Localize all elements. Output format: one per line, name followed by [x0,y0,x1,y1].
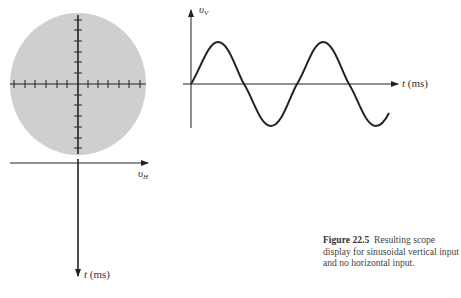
vertical-input-plot [183,10,398,128]
figure-caption: Figure 22.5 Resulting scope display for … [323,234,461,269]
scope-screen [10,13,146,155]
vv-axis-label: υV [199,3,208,15]
time-axis-right-label: t (ms) [402,77,428,89]
vh-axis-label: υH [138,167,148,179]
figure-number: Figure 22.5 [323,234,369,245]
time-axis-down-label: t (ms) [84,268,110,280]
horizontal-input-plot [10,159,148,276]
